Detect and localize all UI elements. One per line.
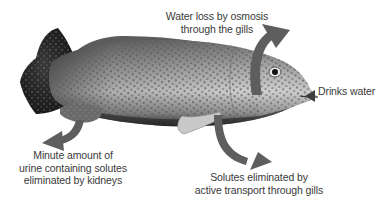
label-solutes: Solutes eliminated by active transport t… (183, 171, 335, 196)
label-urine: Minute amount of urine containing solute… (2, 149, 144, 187)
label-drinks-water: Drinks water (318, 85, 375, 98)
label-line: Solutes eliminated by (183, 171, 335, 184)
arrow-urine (42, 120, 84, 151)
osmoregulation-diagram: Water loss by osmosis through the gills … (0, 0, 389, 201)
fish-eye (269, 67, 281, 77)
label-line: Water loss by osmosis (142, 10, 292, 23)
label-line: Minute amount of (2, 149, 144, 162)
label-line: Drinks water (318, 85, 375, 98)
label-line: urine containing solutes (2, 162, 144, 175)
label-line: through the gills (142, 23, 292, 36)
label-water-loss: Water loss by osmosis through the gills (142, 10, 292, 35)
label-line: active transport through gills (183, 184, 335, 197)
label-line: eliminated by kidneys (2, 174, 144, 187)
